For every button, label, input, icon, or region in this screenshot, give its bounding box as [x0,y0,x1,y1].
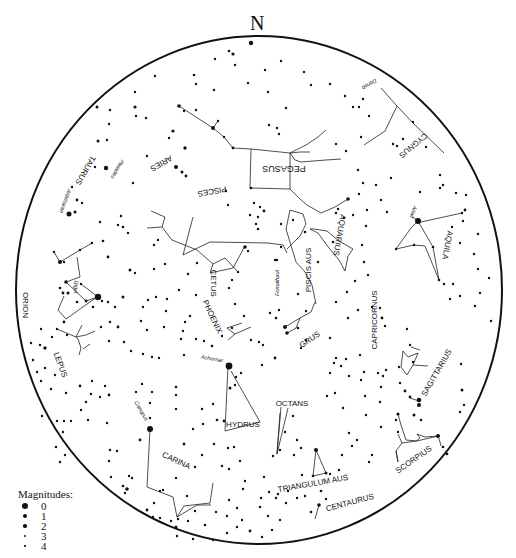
star [239,460,241,462]
star [392,143,394,145]
star [312,475,315,478]
star [425,146,427,148]
star [271,529,273,531]
star [439,187,441,189]
star [117,326,120,329]
star [296,497,298,499]
star [177,518,179,520]
star [145,117,147,119]
star [381,317,384,320]
star [227,447,229,449]
star [284,431,286,433]
star [249,41,253,45]
constellation-line [179,106,310,153]
star [275,497,277,499]
star [109,109,111,111]
star [459,295,461,297]
star [371,454,373,456]
star [176,535,178,537]
star [236,526,238,528]
star [214,58,216,60]
star [432,246,435,249]
star [367,274,369,276]
star [283,325,287,329]
star [396,145,398,147]
star [124,492,126,494]
star [85,401,87,403]
star [120,215,122,217]
star [66,334,68,336]
star [182,330,184,332]
star [363,261,365,263]
star [362,98,364,100]
star [301,474,303,476]
star [189,315,191,317]
star [358,193,360,195]
star [439,174,441,176]
star [175,386,178,389]
constellation-label-aquarius: AQUARIUS [331,214,347,257]
star [92,306,95,309]
star [109,321,111,323]
star [379,401,381,403]
star [269,312,271,314]
star [171,129,174,132]
star [231,327,233,329]
star [464,209,467,212]
star [195,338,197,340]
star [223,136,225,138]
star [107,301,109,303]
star [181,171,184,174]
star [40,328,42,330]
north-direction-label: N [250,12,264,35]
star [241,519,243,521]
constellation-line [76,325,82,337]
constellation-line [290,130,326,153]
star [257,216,259,218]
star [122,485,125,488]
star [334,392,336,394]
constellation-label-aquila: AQUILA [440,230,454,261]
star [272,455,274,457]
star [404,390,407,393]
star [229,387,232,390]
star [231,279,233,281]
star [64,280,68,284]
star [227,204,229,206]
mag-0-dot [22,503,28,509]
star [257,228,260,231]
star [279,449,281,451]
star [335,301,337,303]
star [362,182,364,184]
star [127,232,129,234]
constellation-line [66,257,98,301]
star [340,365,342,367]
star [285,331,289,335]
star [413,244,415,246]
star [436,434,440,438]
star [123,341,125,343]
constellation-label-piscis-aus: PISCIS AUS [304,248,313,292]
star [116,450,118,452]
star [259,206,261,208]
constellation-line [290,153,341,162]
star [30,342,32,344]
star [50,388,52,390]
star [397,431,399,433]
star [194,510,196,512]
star [360,379,362,381]
star-dot-icon [18,524,32,528]
legend-title: Magnitudes: [18,488,73,500]
star [235,376,237,378]
star [310,84,312,86]
star [153,268,155,270]
star [243,315,245,317]
mag-3-dot [24,535,27,538]
star [242,488,244,490]
star [380,199,382,201]
constellation-label-capricornus: CAPRICORNUS [370,290,379,349]
star [104,385,106,387]
star [91,380,93,382]
star [104,166,108,170]
star [459,242,461,244]
